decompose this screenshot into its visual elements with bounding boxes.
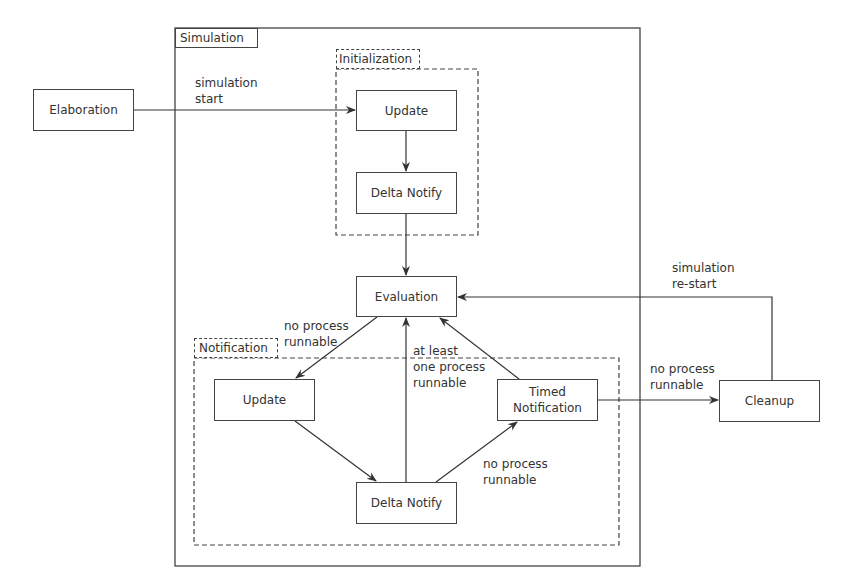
notification-label: Notification bbox=[194, 338, 278, 358]
edge-label-eval-no-process: no process runnable bbox=[284, 318, 349, 350]
node-cleanup: Cleanup bbox=[719, 380, 820, 422]
node-timed-notification: Timed Notification bbox=[497, 379, 598, 421]
edge-notif-update-to-delta bbox=[295, 421, 376, 481]
node-notif-update: Update bbox=[214, 379, 315, 421]
node-notif-delta-notify: Delta Notify bbox=[356, 482, 457, 524]
edge-label-simulation-restart: simulation re-start bbox=[672, 260, 735, 292]
node-evaluation: Evaluation bbox=[356, 276, 457, 317]
simulation-label: Simulation bbox=[175, 28, 258, 48]
node-init-update: Update bbox=[356, 90, 457, 131]
edge-label-delta-no-process: no process runnable bbox=[483, 456, 548, 488]
edge-label-simulation-start: simulation start bbox=[195, 75, 258, 107]
edge-label-at-least-one: at least one process runnable bbox=[413, 343, 485, 391]
initialization-label: Initialization bbox=[336, 49, 420, 69]
node-init-delta-notify: Delta Notify bbox=[356, 172, 457, 214]
edge-label-timed-no-process: no process runnable bbox=[650, 361, 715, 393]
node-elaboration: Elaboration bbox=[33, 89, 134, 131]
